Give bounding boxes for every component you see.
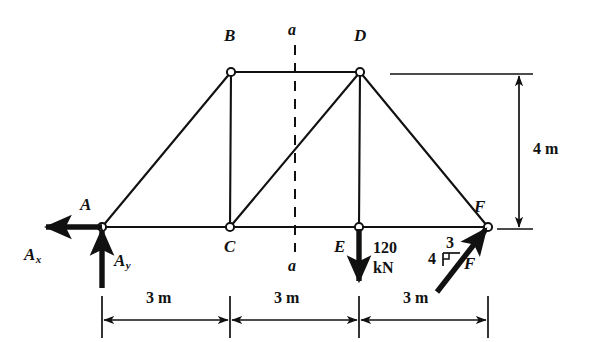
load-magnitude: 120: [373, 239, 397, 256]
truss-members: [102, 72, 488, 227]
section-label-top: a: [288, 22, 296, 38]
joint-label-F: F: [474, 198, 485, 215]
member-C-D: [230, 72, 360, 227]
joint-label-B: B: [224, 27, 235, 44]
dimension-label-3m-2: 3 m: [274, 290, 299, 306]
joint-label-D: D: [354, 27, 366, 44]
joint-D: [356, 68, 364, 76]
reaction-label-Ax: Ax: [24, 246, 41, 265]
member-D-F: [360, 72, 488, 227]
load-label-120kN: 120kN: [373, 238, 397, 277]
dimension-label-4m: 4 m: [533, 141, 558, 157]
member-D-E: [359, 72, 360, 227]
joint-label-E: E: [334, 238, 345, 255]
slope-run-label: 4: [428, 251, 436, 267]
dimension-label-3m-3: 3 m: [403, 290, 428, 306]
member-B-C: [230, 72, 231, 227]
slope-rise-label: 3: [446, 235, 454, 251]
joint-label-C: C: [224, 238, 235, 255]
reaction-Ax-symbol: A: [24, 245, 35, 264]
truss-diagram: A B C D E F a a Ax Ay 120kN 3 4 F 3 m 3 …: [0, 0, 589, 342]
reaction-Ay-subscript: y: [125, 259, 130, 271]
load-unit: kN: [373, 259, 393, 276]
reaction-label-Ay: Ay: [114, 252, 131, 271]
section-label-bottom: a: [288, 258, 296, 274]
dimension-vertical-4m: [390, 74, 533, 229]
joint-label-A: A: [80, 196, 91, 213]
load-label-F: F: [464, 255, 475, 272]
joint-B: [227, 68, 235, 76]
joint-C: [226, 223, 234, 231]
dimension-label-3m-1: 3 m: [146, 290, 171, 306]
load-F-arrow: [437, 229, 486, 292]
member-A-B: [102, 72, 231, 227]
right-angle-mark: [443, 253, 449, 259]
reaction-Ay-symbol: A: [114, 251, 125, 270]
reaction-Ax-subscript: x: [35, 253, 41, 265]
